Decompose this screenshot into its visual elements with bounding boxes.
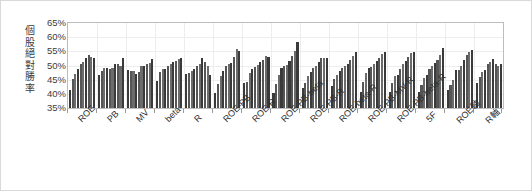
bar xyxy=(151,59,153,108)
chart-figure: 個股絕對勝率 65%60%55%50%45%40%35% ROEPBMVbeta… xyxy=(0,0,532,191)
y-tick-label: 40% xyxy=(36,87,66,98)
bar-group xyxy=(214,23,243,108)
bar-group xyxy=(476,23,502,108)
bar xyxy=(93,58,95,108)
bar-groups xyxy=(68,23,503,108)
x-axis-category-labels: ROEPBMVbetaRROE-PBROE-RROE-PB-betaROE-PB… xyxy=(67,113,504,183)
bar xyxy=(500,64,502,108)
y-tick-label: 35% xyxy=(36,102,66,113)
y-tick-label: 65% xyxy=(36,17,66,28)
bar-group xyxy=(127,23,156,108)
y-axis-tick-labels: 65%60%55%50%45%40%35% xyxy=(36,17,66,115)
y-tick-label: 50% xyxy=(36,59,66,70)
plot-area xyxy=(67,22,504,109)
y-axis-title: 個股絕對勝率 xyxy=(23,25,36,94)
bar-group xyxy=(272,23,301,108)
bar-group xyxy=(156,23,185,108)
bar xyxy=(122,58,124,108)
bar-group xyxy=(447,23,476,108)
y-tick-label: 45% xyxy=(36,73,66,84)
bar-group xyxy=(69,23,98,108)
x-axis-label: R xyxy=(192,112,204,124)
y-tick-label: 55% xyxy=(36,45,66,56)
bar xyxy=(180,58,182,108)
bar xyxy=(209,75,211,108)
bar-group xyxy=(98,23,127,108)
bar-group xyxy=(185,23,214,108)
y-tick-label: 60% xyxy=(36,31,66,42)
